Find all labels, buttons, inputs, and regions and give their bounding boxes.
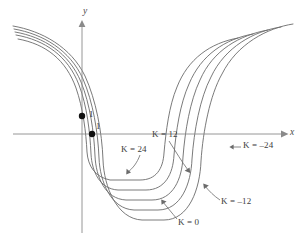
curve-k-neg24	[13, 24, 293, 220]
curve-k-0	[15, 30, 268, 200]
y-axis-label: y	[83, 7, 87, 17]
curve-label-k-neg12: K = –12	[221, 197, 251, 206]
leader-k-0-arrowhead	[161, 199, 166, 204]
leader-k-12-arrowhead	[185, 168, 191, 173]
curve-label-k-24: K = 24	[121, 145, 147, 154]
curve-label-k-neg24: K = –24	[243, 141, 273, 150]
curve-label-k-0: K = 0	[178, 218, 199, 227]
curve-family	[13, 24, 293, 220]
leader-k-neg24-arrowhead	[229, 145, 233, 150]
point-on-y-axis-dot	[79, 113, 85, 119]
level-curves-figure: y x 1 1 K = 24 K = 12 K = 0 K = –12 K = …	[0, 0, 303, 241]
leader-k-neg12	[205, 186, 220, 200]
x-axis-arrowhead	[281, 131, 289, 138]
x-axis-label: x	[290, 128, 294, 138]
figure-canvas	[0, 0, 303, 241]
leader-k-12	[169, 141, 188, 170]
point-on-y-axis-label: 1	[89, 110, 93, 119]
curve-label-k-12: K = 12	[152, 130, 178, 139]
curve-k-12	[16, 34, 253, 190]
curve-k-neg12	[14, 27, 281, 210]
point-on-x-axis-label: 1	[96, 122, 100, 131]
leader-k-neg12-arrowhead	[203, 184, 209, 189]
leader-k-24	[128, 155, 140, 172]
point-on-x-axis-dot	[89, 131, 95, 137]
y-axis-arrowhead	[79, 20, 86, 27]
